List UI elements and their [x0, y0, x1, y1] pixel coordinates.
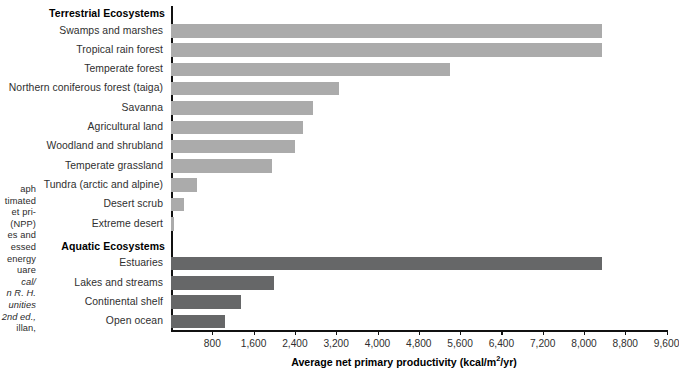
- category-label: Estuaries: [0, 257, 163, 268]
- category-label: Tropical rain forest: [0, 44, 163, 55]
- chart-row: Temperate grassland: [0, 158, 647, 177]
- superscript-two: 2: [496, 354, 500, 363]
- chart-row: Woodland and shrubland: [0, 138, 647, 157]
- x-tick-label: 3,200: [323, 338, 349, 349]
- bar: [171, 178, 197, 192]
- bar: [171, 257, 602, 271]
- x-tick-label: 4,800: [406, 338, 432, 349]
- section-header-terrestrial: Terrestrial Ecosystems: [4, 7, 165, 19]
- bar: [171, 121, 303, 135]
- bar: [171, 198, 184, 212]
- category-label: Agricultural land: [0, 121, 163, 132]
- x-tick: [378, 330, 379, 335]
- x-tick-label: 2,400: [282, 338, 308, 349]
- category-label: Swamps and marshes: [0, 25, 163, 36]
- bar: [171, 82, 339, 96]
- bar: [171, 315, 225, 329]
- x-tick-label: 6,400: [489, 338, 515, 349]
- category-label: Extreme desert: [0, 218, 163, 229]
- x-tick-label: 7,200: [530, 338, 556, 349]
- category-label: Continental shelf: [0, 296, 163, 307]
- category-label: Savanna: [0, 102, 163, 113]
- chart-row: Swamps and marshes: [0, 23, 647, 42]
- x-tick: [584, 330, 585, 335]
- bar: [171, 63, 450, 77]
- bar: [171, 276, 274, 290]
- chart-row: Desert scrub: [0, 196, 647, 215]
- x-tick-label: 9,600: [654, 338, 679, 349]
- category-label: Northern coniferous forest (taiga): [0, 82, 163, 93]
- x-tick-label: 5,600: [447, 338, 473, 349]
- chart-row: Tropical rain forest: [0, 42, 647, 61]
- chart-row: Savanna: [0, 100, 647, 119]
- x-tick-label: 1,600: [241, 338, 267, 349]
- section-header-aquatic: Aquatic Ecosystems: [4, 240, 165, 252]
- category-label: Tundra (arctic and alpine): [0, 179, 163, 190]
- bar: [171, 217, 174, 231]
- bar: [171, 24, 602, 38]
- x-tick: [501, 330, 502, 335]
- category-label: Desert scrub: [0, 198, 163, 209]
- chart-row: Estuaries: [0, 255, 647, 274]
- chart-row: Open ocean: [0, 313, 647, 332]
- x-tick: [543, 330, 544, 335]
- bar: [171, 140, 295, 154]
- chart-row: Lakes and streams: [0, 275, 647, 294]
- x-tick-label: 8,000: [571, 338, 597, 349]
- x-tick: [625, 330, 626, 335]
- chart-row: Continental shelf: [0, 294, 647, 313]
- bar: [171, 159, 272, 173]
- x-tick: [295, 330, 296, 335]
- category-label: Temperate grassland: [0, 160, 163, 171]
- category-label: Open ocean: [0, 315, 163, 326]
- x-tick-label: 4,000: [365, 338, 391, 349]
- x-tick-label: 8,800: [613, 338, 639, 349]
- x-tick: [460, 330, 461, 335]
- x-tick: [212, 330, 213, 335]
- x-tick: [254, 330, 255, 335]
- bar: [171, 101, 313, 115]
- bar: [171, 295, 241, 309]
- category-label: Temperate forest: [0, 63, 163, 74]
- x-tick: [667, 330, 668, 335]
- chart-row: Extreme desert: [0, 216, 647, 235]
- chart-row: Agricultural land: [0, 119, 647, 138]
- x-axis-title: Average net primary productivity (kcal/m…: [171, 354, 637, 368]
- chart-row: Northern coniferous forest (taiga): [0, 80, 647, 99]
- chart-row: Tundra (arctic and alpine): [0, 177, 647, 196]
- x-tick-label: 800: [204, 338, 221, 349]
- x-tick: [419, 330, 420, 335]
- chart-row: Temperate forest: [0, 61, 647, 80]
- category-label: Woodland and shrubland: [0, 140, 163, 151]
- category-label: Lakes and streams: [0, 277, 163, 288]
- x-tick: [336, 330, 337, 335]
- bar: [171, 43, 602, 57]
